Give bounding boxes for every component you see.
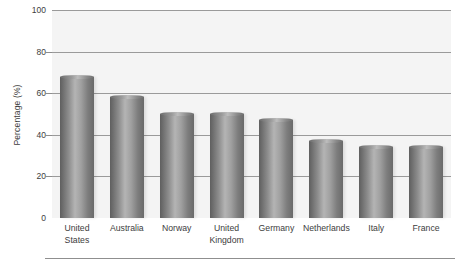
y-axis-title: Percentage (%) [12, 55, 22, 175]
x-axis-label: Norway [152, 223, 202, 235]
x-axis-label: UnitedKingdom [202, 223, 252, 246]
x-axis-label-line: United [52, 223, 102, 235]
bar [259, 120, 293, 218]
x-axis-label-line: Kingdom [202, 235, 252, 247]
bar-slot [52, 10, 102, 218]
bar [359, 147, 393, 218]
y-axis-tick-label: 0 [6, 213, 46, 223]
bar-slot [401, 10, 451, 218]
bar-cap [160, 112, 194, 116]
x-axis-label: Netherlands [301, 223, 351, 235]
footer-divider [45, 258, 455, 259]
y-axis-tick-label: 40 [6, 130, 46, 140]
y-axis-tick-mark [45, 176, 52, 177]
bar-slot [252, 10, 302, 218]
bar-slot [152, 10, 202, 218]
bar [210, 114, 244, 218]
x-axis-labels: UnitedStatesAustraliaNorwayUnitedKingdom… [52, 223, 451, 255]
x-axis-label: Australia [102, 223, 152, 235]
bar-cap [309, 139, 343, 143]
y-axis-tick-label: 80 [6, 47, 46, 57]
bar-cap [259, 118, 293, 122]
bar-slot [102, 10, 152, 218]
bar [60, 77, 94, 218]
x-axis-label-line: Italy [351, 223, 401, 235]
x-axis-label-line: Germany [252, 223, 302, 235]
bar-cap [210, 112, 244, 116]
bar [409, 147, 443, 218]
bar-slot [351, 10, 401, 218]
y-axis-tick-label: 20 [6, 171, 46, 181]
y-axis-tick-label: 100 [6, 5, 46, 15]
y-axis-tick-label: 60 [6, 88, 46, 98]
bar [309, 141, 343, 218]
x-axis-label-line: France [401, 223, 451, 235]
bar-cap [60, 75, 94, 79]
bar-cap [359, 145, 393, 149]
bar [110, 97, 144, 218]
x-axis-label: Italy [351, 223, 401, 235]
y-axis-tick-mark [45, 93, 52, 94]
bar-cap [409, 145, 443, 149]
bar-chart-figure: Percentage (%) 020406080100 UnitedStates… [0, 0, 462, 269]
x-axis-label-line: Australia [102, 223, 152, 235]
bar-series [52, 10, 451, 218]
x-axis-label: Germany [252, 223, 302, 235]
bar-slot [301, 10, 351, 218]
bar-slot [202, 10, 252, 218]
bar [160, 114, 194, 218]
x-axis-label-line: Netherlands [301, 223, 351, 235]
x-axis-label-line: States [52, 235, 102, 247]
x-axis-label-line: United [202, 223, 252, 235]
bar-cap [110, 95, 144, 99]
x-axis-label: France [401, 223, 451, 235]
y-axis-tick-mark [45, 52, 52, 53]
x-axis-label: UnitedStates [52, 223, 102, 246]
y-axis-tick-mark [45, 135, 52, 136]
x-axis-label-line: Norway [152, 223, 202, 235]
